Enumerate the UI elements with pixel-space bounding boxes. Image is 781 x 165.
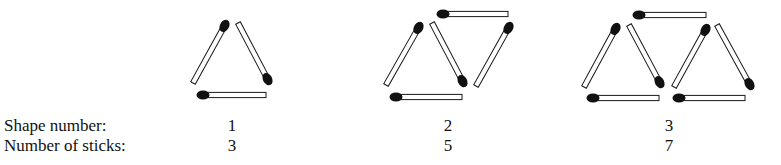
matchstick-stick bbox=[715, 24, 751, 83]
matchstick bbox=[472, 20, 516, 88]
matchstick bbox=[437, 9, 509, 18]
matchstick-stick bbox=[191, 27, 226, 84]
matchstick bbox=[587, 93, 660, 102]
matchstick bbox=[197, 90, 267, 99]
matchstick bbox=[382, 20, 426, 87]
shape-2-sticks: 5 bbox=[438, 136, 458, 156]
shape-1-number: 1 bbox=[222, 116, 242, 136]
matchstick-head bbox=[437, 9, 450, 18]
matchstick-stick bbox=[596, 95, 659, 100]
matchstick bbox=[670, 22, 713, 89]
shape-3-three-triangles bbox=[580, 10, 757, 102]
matchstick-head bbox=[633, 10, 646, 19]
matchstick-stick bbox=[672, 31, 707, 88]
matchstick-stick bbox=[236, 22, 269, 78]
matchstick bbox=[633, 10, 707, 19]
matchstick bbox=[428, 21, 470, 89]
matchstick-stick bbox=[206, 92, 266, 97]
shape-3-sticks: 7 bbox=[659, 136, 679, 156]
matchstick-stick bbox=[384, 29, 420, 86]
matchstick-stick bbox=[474, 29, 510, 87]
shape-2-two-triangles bbox=[382, 9, 516, 101]
shape-2-number: 2 bbox=[438, 116, 458, 136]
shape-1-sticks: 3 bbox=[222, 136, 242, 156]
matchstick bbox=[625, 23, 667, 90]
matchstick-stick bbox=[682, 95, 745, 100]
shape-1-triangle bbox=[189, 18, 275, 100]
shape-3-number: 3 bbox=[659, 116, 679, 136]
matchstick-head bbox=[587, 93, 600, 102]
number-of-sticks-label: Number of sticks: bbox=[4, 136, 126, 156]
matchstick-stick bbox=[582, 30, 617, 88]
matchstick bbox=[713, 23, 757, 92]
matchstick bbox=[189, 18, 232, 85]
matchstick-stick bbox=[627, 24, 661, 81]
shape-number-label: Shape number: bbox=[4, 116, 106, 136]
matchstick bbox=[390, 92, 463, 101]
matchstick-stick bbox=[446, 11, 508, 16]
matchstick-stick bbox=[642, 12, 706, 17]
matchstick-stick bbox=[399, 94, 462, 99]
matchstick-head bbox=[673, 93, 686, 102]
matchstick bbox=[234, 21, 275, 87]
matchstick bbox=[673, 93, 746, 102]
matchstick-head bbox=[390, 92, 403, 101]
matchstick-head bbox=[197, 90, 210, 99]
matchstick-stick bbox=[430, 22, 464, 80]
matchstick bbox=[580, 21, 623, 89]
